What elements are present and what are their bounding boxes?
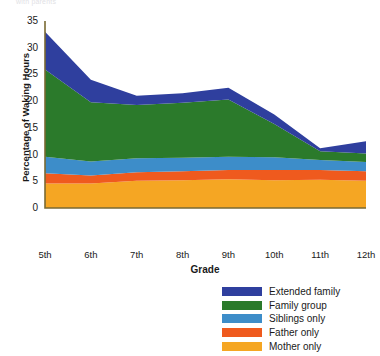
legend-item[interactable]: Father only — [222, 326, 340, 340]
legend-item[interactable]: Mother only — [222, 339, 340, 353]
legend-label: Family group — [269, 300, 327, 311]
chart-figure: with parents Percentage of Waking Hours … — [0, 0, 380, 356]
legend-item[interactable]: Extended family — [222, 285, 340, 299]
legend-label: Siblings only — [269, 313, 325, 324]
legend-item[interactable]: Siblings only — [222, 312, 340, 326]
legend-swatch — [222, 314, 262, 323]
chart-legend: Extended familyFamily groupSiblings only… — [222, 285, 340, 353]
legend-label: Mother only — [269, 341, 321, 352]
legend-swatch — [222, 301, 262, 310]
legend-item[interactable]: Family group — [222, 299, 340, 313]
area-series-mother-only — [45, 179, 366, 208]
legend-label: Extended family — [269, 286, 340, 297]
legend-swatch — [222, 328, 262, 337]
legend-swatch — [222, 342, 262, 351]
legend-swatch — [222, 287, 262, 296]
legend-label: Father only — [269, 327, 319, 338]
